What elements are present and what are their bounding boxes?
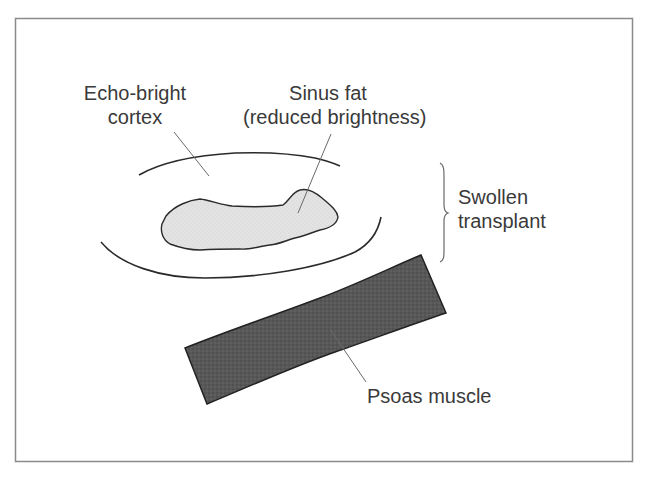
cortex-label: Echo-bright cortex	[73, 81, 197, 129]
diagram-canvas	[0, 0, 648, 495]
cortex-leader-line	[174, 132, 209, 176]
sinus-fat-label-line2: (reduced brightness)	[243, 105, 413, 129]
cortex-label-line2: cortex	[73, 105, 197, 129]
sinus-fat-label-line1: Sinus fat	[243, 81, 413, 105]
transplant-label: Swollen transplant	[458, 185, 546, 233]
cortex-label-line1: Echo-bright	[73, 81, 197, 105]
transplant-brace	[440, 163, 448, 262]
psoas-label: Psoas muscle	[367, 384, 492, 408]
cortex-upper-arc	[139, 153, 340, 175]
transplant-label-line2: transplant	[458, 209, 546, 233]
transplant-label-line1: Swollen	[458, 185, 546, 209]
sinus-fat-label: Sinus fat (reduced brightness)	[243, 81, 413, 129]
transplant-ultrasound-diagram: Echo-bright cortex Sinus fat (reduced br…	[0, 0, 648, 495]
sinus-fat-region	[161, 189, 338, 250]
